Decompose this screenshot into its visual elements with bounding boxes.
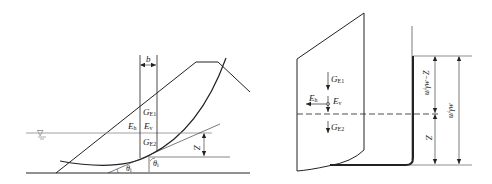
vertical-force-label: Ev — [143, 121, 153, 131]
base-angle-label: θi — [126, 164, 132, 173]
slice-width-label: b — [146, 54, 151, 64]
slope-stability-diagram: ▽ b Z GE1 Eh Ev GE2 θi θi — [0, 0, 492, 184]
right-panel: u/γw−Z u/γw Z GE1 Eh Ev GE2 — [297, 13, 472, 171]
slope-profile — [56, 62, 250, 173]
depth-label-right: Z — [424, 135, 434, 141]
weight-below-label-right: GE2 — [331, 122, 344, 132]
slice-angle-label: θi — [153, 159, 159, 168]
weight-below-label: GE2 — [143, 137, 156, 147]
horizontal-force-label: Eh — [127, 121, 137, 131]
depth-label: Z — [192, 145, 202, 151]
slice-outline — [297, 13, 364, 171]
tangent-line — [108, 124, 220, 173]
head-label: u/γw — [446, 103, 455, 118]
horizontal-force-label-right: Eh — [308, 93, 318, 103]
weight-above-label-right: GE1 — [331, 74, 344, 84]
piezometer-bottom — [330, 56, 413, 165]
water-table-icon: ▽ — [37, 128, 44, 137]
weight-above-label: GE1 — [143, 107, 156, 117]
vertical-force-label-right: Ev — [332, 96, 342, 106]
left-panel: ▽ b Z GE1 Eh Ev GE2 θi θi — [26, 54, 250, 173]
head-minus-z-label: u/γw−Z — [422, 70, 431, 95]
